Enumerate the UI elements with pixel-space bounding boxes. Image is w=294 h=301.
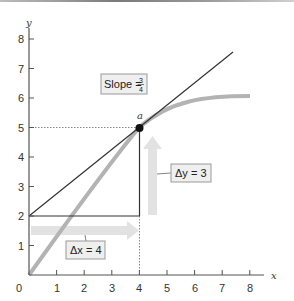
y-tick-label: 4 [18,151,24,163]
slope-box: Slope = 3 4 [101,74,147,94]
y-tick-label: 8 [18,33,24,45]
delta-y-label: Δy = 3 [175,167,207,179]
slope-prefix: Slope = [104,78,142,90]
x-tick-label: 7 [219,282,225,294]
delta-x-box: Δx = 4 [66,241,105,259]
delta-x-label: Δx = 4 [70,244,102,256]
y-tick-label: 6 [18,92,24,104]
x-axis-label: x [271,270,277,281]
y-axis-label: y [25,17,32,28]
y-tick-label: 7 [18,63,24,75]
delta-y-leader [157,173,171,174]
x-tick-label: 3 [109,282,115,294]
x-tick-label: 8 [247,282,253,294]
x-tick-label: 6 [192,282,198,294]
point-a [136,124,144,132]
slope-denominator: 4 [139,86,143,93]
y-tick-label: 3 [18,181,24,193]
delta-y-arrow [143,136,162,215]
delta-y-box: Δy = 3 [171,164,211,182]
x-tick-label: 1 [54,282,60,294]
point-a-label: a [137,110,143,121]
slope-numerator: 3 [139,77,143,84]
chart-canvas: 1 2 3 4 5 6 7 8 0 1 2 3 4 5 6 7 8 y x a … [0,0,294,301]
y-tick-label: 5 [18,122,24,134]
x-ticks [57,270,250,275]
x-tick-label: 5 [164,282,170,294]
x-tick-label: 2 [81,282,87,294]
delta-x-leader [85,235,86,241]
origin-label: 0 [16,282,22,294]
y-tick-label: 2 [18,210,24,222]
y-tick-label: 1 [18,240,24,252]
x-tick-label: 4 [136,282,142,294]
